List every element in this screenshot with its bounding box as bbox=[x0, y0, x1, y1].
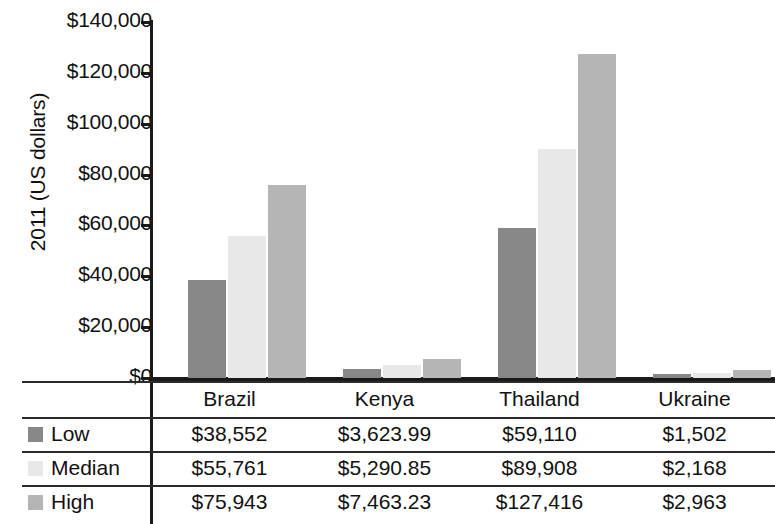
legend-swatch-icon-high bbox=[28, 495, 43, 510]
cell-high-kenya: $7,463.23 bbox=[307, 490, 462, 514]
legend-swatch-icon-median bbox=[28, 461, 43, 476]
table-rule bbox=[22, 485, 775, 487]
y-tick-label: $120,000 bbox=[16, 59, 152, 83]
cell-median-thailand: $89,908 bbox=[462, 456, 617, 480]
cell-low-thailand: $59,110 bbox=[462, 422, 617, 446]
table-row: Median $55,761 $5,290.85 $89,908 $2,168 bbox=[0, 451, 775, 485]
bar-low-thailand bbox=[498, 228, 536, 378]
bar-low-brazil bbox=[188, 280, 226, 378]
table-row: High $75,943 $7,463.23 $127,416 $2,963 bbox=[0, 485, 775, 519]
bar-high-ukraine bbox=[733, 370, 771, 378]
y-tick-label: $60,000 bbox=[16, 211, 152, 235]
table-rule bbox=[22, 451, 775, 453]
bar-group bbox=[152, 22, 307, 378]
cell-low-brazil: $38,552 bbox=[152, 422, 307, 446]
chart-page: 2011 (US dollars) $140,000$120,000$100,0… bbox=[0, 0, 775, 524]
cell-high-ukraine: $2,963 bbox=[617, 490, 772, 514]
column-header-2: Thailand bbox=[462, 387, 617, 411]
bar-high-brazil bbox=[268, 185, 306, 378]
y-tick-label: $140,000 bbox=[16, 8, 152, 32]
bar-group bbox=[462, 22, 617, 378]
cell-median-ukraine: $2,168 bbox=[617, 456, 772, 480]
y-tick-label: $20,000 bbox=[16, 313, 152, 337]
cell-median-brazil: $55,761 bbox=[152, 456, 307, 480]
bar-low-kenya bbox=[343, 369, 381, 378]
legend-swatch-icon-low bbox=[28, 427, 43, 442]
data-table: Brazil Kenya Thailand Ukraine Low $38,55… bbox=[0, 381, 775, 519]
row-label-high: High bbox=[51, 490, 94, 514]
column-header-1: Kenya bbox=[307, 387, 462, 411]
cell-high-brazil: $75,943 bbox=[152, 490, 307, 514]
bar-median-kenya bbox=[383, 365, 421, 378]
bar-group bbox=[617, 22, 772, 378]
y-tick-label: $40,000 bbox=[16, 262, 152, 286]
cell-low-kenya: $3,623.99 bbox=[307, 422, 462, 446]
cell-low-ukraine: $1,502 bbox=[617, 422, 772, 446]
y-tick-label: $80,000 bbox=[16, 161, 152, 185]
cell-high-thailand: $127,416 bbox=[462, 490, 617, 514]
legend-item-high: High bbox=[0, 490, 152, 514]
legend-item-low: Low bbox=[0, 422, 152, 446]
bar-median-ukraine bbox=[693, 373, 731, 379]
table-header-row: Brazil Kenya Thailand Ukraine bbox=[0, 381, 775, 417]
row-label-low: Low bbox=[51, 422, 90, 446]
legend-item-median: Median bbox=[0, 456, 152, 480]
column-header-3: Ukraine bbox=[617, 387, 772, 411]
table-rule bbox=[22, 417, 775, 419]
y-tick-label: $100,000 bbox=[16, 110, 152, 134]
column-header-0: Brazil bbox=[152, 387, 307, 411]
bar-high-kenya bbox=[423, 359, 461, 378]
bar-median-brazil bbox=[228, 236, 266, 378]
row-label-median: Median bbox=[51, 456, 120, 480]
bar-group bbox=[307, 22, 462, 378]
cell-median-kenya: $5,290.85 bbox=[307, 456, 462, 480]
bar-high-thailand bbox=[578, 54, 616, 378]
bar-median-thailand bbox=[538, 149, 576, 378]
plot-area bbox=[152, 22, 775, 378]
bar-low-ukraine bbox=[653, 374, 691, 378]
table-rule bbox=[22, 381, 775, 383]
table-row: Low $38,552 $3,623.99 $59,110 $1,502 bbox=[0, 417, 775, 451]
